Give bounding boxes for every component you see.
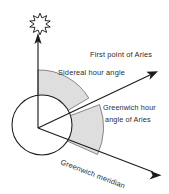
label-sidereal-hour-angle: Sidereal hour angle (58, 68, 125, 77)
label-greenwich-hour-angle-line2: angle of Aries (105, 115, 151, 124)
diagram-canvas: First point of Aries Sidereal hour angle… (0, 0, 169, 194)
earth-circle (12, 95, 72, 155)
sun-icon (30, 13, 50, 35)
label-greenwich-hour-angle-line1: Greenwich hour (103, 103, 156, 112)
label-greenwich-meridian: Greenwich meridian (59, 157, 126, 190)
ray-greenwich-meridian-arrowhead (149, 171, 161, 180)
label-first-point-of-aries: First point of Aries (90, 50, 152, 59)
hour-angle-diagram: First point of Aries Sidereal hour angle… (0, 0, 169, 194)
